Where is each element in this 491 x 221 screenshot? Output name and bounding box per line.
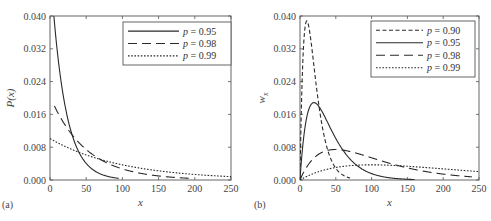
x-tick-label: 200 <box>436 183 451 194</box>
y-tick-label: 0.024 <box>24 76 47 87</box>
y-tick-label: 0.008 <box>24 142 47 153</box>
series-line <box>300 103 415 180</box>
legend: p = 0.90p = 0.95p = 0.98p = 0.99 <box>371 21 475 77</box>
panel-label: (a) <box>2 199 13 211</box>
x-tick-label: 200 <box>187 183 202 194</box>
chart-a-canvas: 0501001502002500.0000.0080.0160.0240.032… <box>0 0 245 221</box>
legend-entry: p = 0.98 <box>182 38 216 49</box>
legend-entry: p = 0.95 <box>426 37 460 48</box>
panel-label: (b) <box>254 199 266 211</box>
y-tick-label: 0.032 <box>274 43 297 54</box>
y-tick-label: 0.040 <box>274 11 297 22</box>
x-tick-label: 50 <box>331 183 341 194</box>
y-tick-label: 0.008 <box>274 142 297 153</box>
series-line <box>50 139 231 177</box>
y-tick-label: 0.016 <box>24 109 47 120</box>
legend-entry: p = 0.90 <box>426 25 460 36</box>
x-axis-label: x <box>137 196 143 208</box>
y-tick-label: 0.032 <box>24 43 47 54</box>
series-line <box>52 0 119 178</box>
legend: p = 0.95p = 0.98p = 0.99 <box>123 22 231 65</box>
y-tick-label: 0.000 <box>24 175 47 186</box>
y-tick-label: 0.024 <box>274 76 297 87</box>
y-axis-label: P(x) <box>4 88 17 108</box>
x-tick-label: 0 <box>298 183 303 194</box>
legend-entry: p = 0.99 <box>426 62 460 73</box>
chart-panel-b: 0501001502002500.0000.0080.0160.0240.032… <box>245 0 490 221</box>
x-tick-label: 150 <box>400 183 415 194</box>
legend-entry: p = 0.98 <box>426 50 460 61</box>
x-tick-label: 100 <box>115 183 130 194</box>
legend-entry: p = 0.99 <box>182 50 216 61</box>
x-tick-label: 0 <box>48 183 53 194</box>
chart-b-canvas: 0501001502002500.0000.0080.0160.0240.032… <box>245 0 491 221</box>
y-tick-label: 0.000 <box>274 175 297 186</box>
x-tick-label: 50 <box>81 183 91 194</box>
y-tick-label: 0.016 <box>274 109 297 120</box>
x-axis-label: x <box>386 196 392 208</box>
y-tick-label: 0.040 <box>24 11 47 22</box>
x-tick-label: 250 <box>472 183 487 194</box>
y-axis-label: wx <box>255 92 270 103</box>
x-tick-label: 100 <box>364 183 379 194</box>
series-line <box>300 21 350 180</box>
series-line <box>300 150 472 180</box>
chart-panel-a: 0501001502002500.0000.0080.0160.0240.032… <box>0 0 245 221</box>
x-tick-label: 250 <box>224 183 239 194</box>
x-tick-label: 150 <box>151 183 166 194</box>
legend-entry: p = 0.95 <box>182 26 216 37</box>
